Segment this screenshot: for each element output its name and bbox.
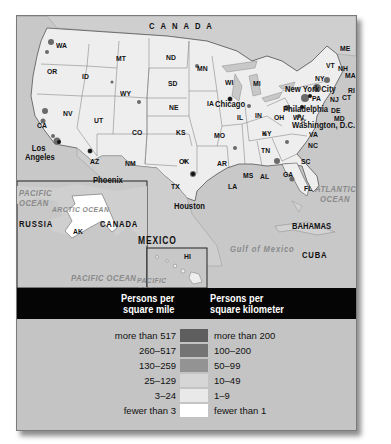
state-label-wi: WI [225, 78, 233, 87]
state-label-id: ID [82, 72, 89, 81]
state-label-al: AL [260, 172, 269, 181]
population-density-map: ★ CANADA RUSSIA CANADA MEXICO BAHAMAS CU… [16, 15, 357, 431]
legend-mile-value: fewer than 3 [124, 405, 176, 416]
state-label-nm: NM [125, 159, 136, 168]
state-label-tx: TX [171, 182, 180, 191]
state-label-sd: SD [168, 79, 177, 88]
state-label-la: LA [228, 182, 237, 191]
legend-swatch [180, 374, 208, 387]
state-label-il: IL [237, 113, 243, 122]
country-label-canada-inset: CANADA [100, 219, 138, 229]
state-label-ar: AR [217, 159, 227, 168]
state-label-or: OR [47, 67, 57, 76]
state-label-me: ME [340, 44, 350, 53]
legend-mile-value: 3–24 [155, 390, 176, 401]
state-label-ne: NE [169, 103, 178, 112]
legend-row: 130–259 50–99 [17, 359, 356, 373]
state-label-ak: AK [73, 227, 83, 236]
legend-km-value: 50–99 [214, 360, 240, 371]
legend: more than 517 more than 200 260–517 100–… [17, 319, 356, 430]
legend-mile-value: 260–517 [139, 345, 176, 356]
state-label-mo: MO [214, 131, 225, 140]
legend-row: 3–24 1–9 [17, 389, 356, 403]
state-label-nd: ND [166, 53, 176, 62]
legend-swatch [180, 359, 208, 372]
state-label-mn: MN [197, 64, 208, 73]
state-label-va: VA [309, 130, 318, 139]
state-label-ut: UT [94, 116, 103, 125]
state-label-in: IN [255, 111, 262, 120]
legend-km-value: 1–9 [214, 390, 230, 401]
ocean-label-gulf-of-mexico: Gulf of Mexico [230, 244, 295, 254]
state-label-ct: CT [342, 93, 351, 102]
legend-header-mile: Persons persquare mile [121, 293, 174, 315]
map-graphic: ★ [17, 16, 356, 288]
state-label-ma: MA [345, 71, 356, 80]
state-label-nj: NJ [330, 95, 339, 104]
ocean-label-atlantic: ATLANTICOCEAN [315, 184, 356, 204]
state-label-ny: NY [315, 74, 324, 83]
city-label-new-york-city: New York City [285, 84, 336, 94]
city-label-phoenix: Phoenix [93, 175, 123, 185]
legend-row: 260–517 100–200 [17, 344, 356, 358]
ocean-label-pacific-alaska: PACIFIC OCEAN [71, 273, 136, 283]
state-label-oh: OH [274, 113, 284, 122]
state-label-ca: CA [37, 121, 47, 130]
legend-mile-value: 130–259 [139, 360, 176, 371]
country-label-cuba: CUBA [302, 250, 328, 260]
legend-km-value: more than 200 [214, 330, 275, 341]
ocean-label-arctic: ARCTIC OCEAN [52, 205, 109, 214]
state-label-sc: SC [301, 157, 310, 166]
legend-swatch [180, 344, 208, 357]
legend-swatch [180, 389, 208, 402]
city-label-chicago: Chicago [215, 99, 245, 109]
state-label-wa: WA [56, 41, 67, 50]
state-label-ga: GA [283, 170, 293, 179]
legend-row: 25–129 10–49 [17, 374, 356, 388]
state-label-ks: KS [176, 128, 185, 137]
country-label-russia: RUSSIA [19, 219, 53, 229]
legend-mile-value: more than 517 [115, 330, 176, 341]
state-label-wy: WY [120, 89, 131, 98]
legend-km-value: 10–49 [214, 375, 240, 386]
legend-swatch [180, 329, 208, 342]
city-label-houston: Houston [174, 201, 205, 211]
legend-header: Persons persquare mile Persons persquare… [17, 288, 356, 319]
city-label-los-angeles: LosAngeles [25, 144, 55, 162]
city-label-washington-dc: Washington, D.C. [292, 120, 355, 130]
state-label-hi: HI [184, 252, 191, 261]
state-label-tn: TN [261, 146, 270, 155]
state-label-nv: NV [63, 109, 72, 118]
state-label-ky: KY [262, 129, 271, 138]
ocean-label-pacific: PACIFICOCEAN [19, 188, 52, 208]
state-label-fl: FL [304, 184, 312, 193]
legend-km-value: fewer than 1 [214, 405, 266, 416]
country-label-canada: CANADA [149, 21, 218, 31]
legend-km-value: 100–200 [214, 345, 251, 356]
state-label-mt: MT [116, 54, 126, 63]
state-label-ia: IA [207, 99, 214, 108]
state-label-ok: OK [179, 157, 189, 166]
state-label-vt: VT [326, 61, 335, 70]
state-label-co: CO [132, 128, 142, 137]
legend-header-km: Persons persquare kilometer [210, 293, 284, 315]
state-label-az: AZ [90, 157, 99, 166]
country-label-mexico: MEXICO [138, 235, 177, 246]
state-label-nc: NC [308, 141, 318, 150]
state-label-ms: MS [243, 171, 253, 180]
legend-row: fewer than 3 fewer than 1 [17, 404, 356, 418]
state-label-pa: PA [312, 94, 321, 103]
city-label-philadelphia: Philadelphia [283, 104, 328, 114]
legend-row: more than 517 more than 200 [17, 329, 356, 343]
state-label-mi: MI [253, 79, 261, 88]
country-label-bahamas: BAHAMAS [292, 221, 331, 231]
legend-mile-value: 25–129 [144, 375, 176, 386]
legend-swatch [180, 404, 208, 417]
